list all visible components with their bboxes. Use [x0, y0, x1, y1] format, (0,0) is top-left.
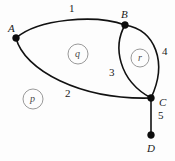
vertex-label-a: A	[8, 23, 15, 34]
edge-1-path	[16, 19, 125, 38]
edge-label-4: 4	[162, 46, 168, 57]
edge-label-5: 5	[158, 110, 164, 121]
vertex-label-c: C	[159, 97, 166, 108]
graph-canvas	[0, 0, 175, 161]
vertex-b-dot	[122, 22, 129, 29]
graph-figure: A B C D 1 2 3 4 5 p q r	[0, 0, 175, 161]
edge-label-3: 3	[109, 67, 115, 78]
face-label-q: q	[75, 49, 80, 59]
vertex-a-dot	[13, 35, 20, 42]
face-label-p: p	[30, 94, 35, 104]
face-label-r: r	[138, 53, 142, 63]
edge-label-2: 2	[65, 88, 71, 99]
edge-label-1: 1	[69, 3, 75, 14]
vertex-label-d: D	[147, 143, 155, 154]
vertex-c-dot	[148, 95, 155, 102]
vertex-label-b: B	[121, 9, 128, 20]
vertex-d-dot	[148, 132, 155, 139]
